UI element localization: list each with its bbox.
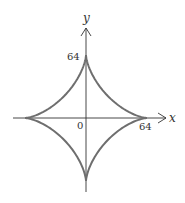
y-axis-label: y	[82, 11, 90, 25]
y-intercept-label: 64	[67, 51, 80, 62]
x-axis-label: x	[169, 111, 176, 125]
astroid-plot: y x 64 0 64	[0, 0, 185, 203]
origin-label: 0	[77, 120, 83, 131]
x-intercept-label: 64	[139, 121, 152, 132]
